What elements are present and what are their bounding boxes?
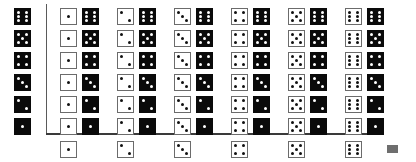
- dice-cell-6-5: [345, 30, 384, 47]
- pip-icon: [142, 77, 145, 80]
- black-die-6: [139, 8, 156, 25]
- pip-icon: [207, 85, 210, 88]
- pip-icon: [370, 15, 373, 18]
- pip-icon: [89, 37, 92, 40]
- pip-icon: [299, 19, 302, 22]
- dice-cell-4-5: [231, 30, 270, 47]
- white-die-1: [60, 30, 77, 47]
- black-die-4: [310, 52, 327, 69]
- pip-icon: [370, 77, 373, 80]
- pip-icon: [321, 41, 324, 44]
- pip-icon: [25, 41, 28, 44]
- white-die-6: [345, 8, 362, 25]
- pip-icon: [321, 15, 324, 18]
- pip-icon: [264, 19, 267, 22]
- pip-icon: [348, 99, 351, 102]
- pip-icon: [181, 148, 184, 151]
- dice-cell-3-5: [174, 30, 213, 47]
- pip-icon: [299, 63, 302, 66]
- black-die-5: [367, 30, 384, 47]
- pip-icon: [348, 85, 351, 88]
- pip-icon: [348, 41, 351, 44]
- pip-icon: [264, 107, 267, 110]
- pip-icon: [120, 55, 123, 58]
- pip-icon: [313, 41, 316, 44]
- pip-icon: [85, 63, 88, 66]
- pip-icon: [142, 15, 145, 18]
- pip-icon: [150, 63, 153, 66]
- black-die-5: [139, 30, 156, 47]
- pip-icon: [120, 77, 123, 80]
- pip-icon: [181, 37, 184, 40]
- white-die-3: [174, 52, 191, 69]
- pip-icon: [264, 85, 267, 88]
- white-die-4: [231, 118, 248, 135]
- black-die-5: [14, 30, 31, 47]
- white-die-1: [60, 52, 77, 69]
- pip-icon: [199, 99, 202, 102]
- white-die-6: [345, 52, 362, 69]
- pip-icon: [264, 33, 267, 36]
- pip-icon: [199, 41, 202, 44]
- white-die-1: [60, 141, 77, 158]
- pip-icon: [177, 99, 180, 102]
- pip-icon: [264, 15, 267, 18]
- y-axis-label-black-2: [14, 96, 31, 113]
- pip-icon: [185, 129, 188, 132]
- pip-icon: [356, 152, 359, 155]
- resize-handle-icon[interactable]: [387, 145, 398, 153]
- black-die-3: [367, 74, 384, 91]
- pip-icon: [21, 81, 24, 84]
- pip-icon: [356, 15, 359, 18]
- black-die-2: [367, 96, 384, 113]
- white-die-2: [117, 141, 134, 158]
- dice-cell-4-4: [231, 52, 270, 69]
- black-die-2: [82, 96, 99, 113]
- pip-icon: [85, 19, 88, 22]
- pip-icon: [128, 41, 131, 44]
- pip-icon: [150, 107, 153, 110]
- dice-cell-3-4: [174, 52, 213, 69]
- pip-icon: [295, 125, 298, 128]
- pip-icon: [299, 121, 302, 124]
- dice-cell-3-3: [174, 74, 213, 91]
- pip-icon: [356, 107, 359, 110]
- pip-icon: [356, 81, 359, 84]
- pip-icon: [150, 15, 153, 18]
- dice-cell-3-2: [174, 96, 213, 113]
- black-die-3: [14, 74, 31, 91]
- white-die-3: [174, 118, 191, 135]
- pip-icon: [348, 33, 351, 36]
- pip-icon: [93, 41, 96, 44]
- pip-icon: [242, 152, 245, 155]
- pip-icon: [348, 59, 351, 62]
- black-die-2: [139, 96, 156, 113]
- pip-icon: [299, 33, 302, 36]
- pip-icon: [234, 41, 237, 44]
- dice-cell-1-2: [60, 96, 99, 113]
- pip-icon: [181, 103, 184, 106]
- pip-icon: [291, 63, 294, 66]
- dice-cell-1-1: [60, 118, 99, 135]
- pip-icon: [142, 99, 145, 102]
- white-die-3: [174, 141, 191, 158]
- pip-icon: [199, 55, 202, 58]
- pip-icon: [199, 15, 202, 18]
- pip-icon: [234, 152, 237, 155]
- x-axis-label-white-5: [288, 141, 305, 158]
- pip-icon: [207, 11, 210, 14]
- pip-icon: [93, 33, 96, 36]
- pip-icon: [370, 99, 373, 102]
- white-die-6: [345, 74, 362, 91]
- pip-icon: [256, 63, 259, 66]
- pip-icon: [17, 15, 20, 18]
- pip-icon: [177, 33, 180, 36]
- black-die-5: [310, 30, 327, 47]
- pip-icon: [295, 103, 298, 106]
- dice-cell-2-5: [117, 30, 156, 47]
- pip-icon: [299, 152, 302, 155]
- white-die-6: [345, 141, 362, 158]
- white-die-3: [174, 30, 191, 47]
- white-die-6: [345, 30, 362, 47]
- white-die-4: [231, 74, 248, 91]
